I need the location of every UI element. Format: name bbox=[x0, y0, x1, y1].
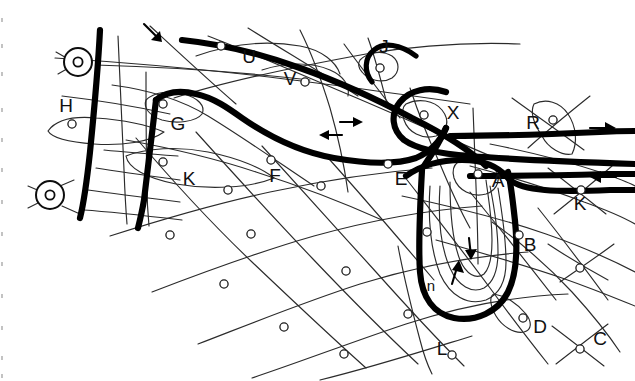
label-R: R bbox=[526, 112, 540, 133]
node-grid-1 bbox=[247, 230, 255, 238]
node-R bbox=[549, 116, 557, 124]
node-grid-12 bbox=[317, 182, 325, 190]
schematic-drawing: HGKFUVJXEARKBnDCL bbox=[0, 0, 635, 381]
station-lower-left bbox=[36, 181, 64, 209]
node-grid-9 bbox=[448, 351, 456, 359]
label-H: H bbox=[59, 95, 73, 116]
node-K1 bbox=[159, 158, 167, 166]
node-grid-4 bbox=[340, 350, 348, 358]
node-J bbox=[376, 64, 384, 72]
node-grid-7 bbox=[224, 186, 232, 194]
thick-route-upper bbox=[182, 40, 486, 166]
diagram-canvas: HGKFUVJXEARKBnDCL bbox=[0, 0, 635, 381]
label-G: G bbox=[171, 113, 186, 134]
node-B bbox=[515, 231, 523, 239]
node-V bbox=[301, 78, 309, 86]
mid-left-arrow bbox=[319, 130, 342, 140]
node-grid-5 bbox=[342, 267, 350, 275]
label-L: L bbox=[437, 338, 448, 359]
label-A: A bbox=[492, 170, 505, 191]
node-C bbox=[576, 345, 584, 353]
label-U: U bbox=[242, 46, 256, 67]
node-grid-3 bbox=[280, 323, 288, 331]
node-G bbox=[159, 100, 167, 108]
thick-route-left-2 bbox=[138, 100, 156, 228]
station-upper-left bbox=[64, 48, 92, 76]
label-V: V bbox=[284, 68, 297, 89]
node-A bbox=[474, 170, 482, 178]
label-F: F bbox=[269, 165, 281, 186]
node-grid-8 bbox=[166, 231, 174, 239]
node-grid-2 bbox=[220, 280, 228, 288]
node-D bbox=[519, 314, 527, 322]
label-J: J bbox=[379, 36, 389, 57]
label-K1: K bbox=[183, 168, 196, 189]
top-diagonal-arrow bbox=[144, 24, 162, 42]
label-K2: K bbox=[574, 193, 587, 214]
node-grid-10 bbox=[576, 264, 584, 272]
primary-route-lines bbox=[80, 30, 635, 319]
node-F bbox=[267, 156, 275, 164]
label-C: C bbox=[593, 328, 607, 349]
label-X: X bbox=[447, 102, 460, 123]
node-X bbox=[420, 111, 428, 119]
mid-right-arrow bbox=[340, 117, 363, 127]
label-B: B bbox=[524, 234, 537, 255]
node-grid-11 bbox=[423, 228, 431, 236]
node-U bbox=[217, 42, 225, 50]
node-H bbox=[68, 120, 76, 128]
node-grid-6 bbox=[404, 310, 412, 318]
label-D: D bbox=[533, 316, 547, 337]
label-n: n bbox=[427, 277, 435, 294]
label-E: E bbox=[395, 168, 408, 189]
node-E bbox=[384, 160, 392, 168]
